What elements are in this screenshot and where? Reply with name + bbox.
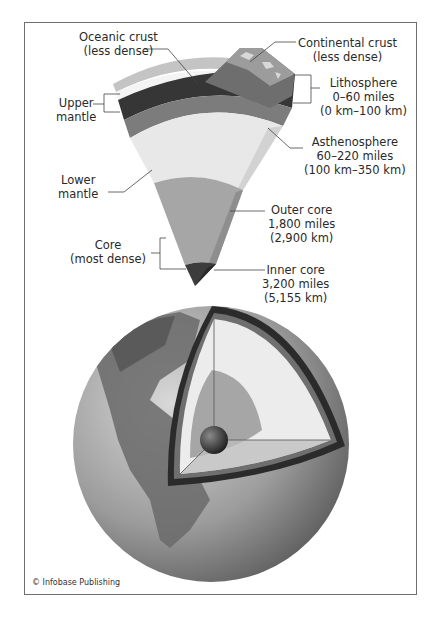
label-upper-mantle: Upper mantle [56, 96, 96, 124]
copyright-credit: © Infobase Publishing [32, 578, 120, 587]
label-lithosphere: Lithosphere 0–60 miles (0 km–100 km) [320, 76, 407, 118]
label-oceanic-crust: Oceanic crust (less dense) [79, 30, 158, 58]
globe-cutaway [73, 306, 349, 582]
label-inner-core: Inner core 3,200 miles (5,155 km) [262, 263, 329, 305]
label-lower-mantle: Lower mantle [58, 173, 98, 201]
label-core: Core (most dense) [70, 238, 146, 266]
label-outer-core: Outer core 1,800 miles (2,900 km) [268, 203, 335, 245]
label-asthenosphere: Asthenosphere 60–220 miles (100 km–350 k… [304, 135, 406, 177]
label-continental-crust: Continental crust (less dense) [298, 36, 397, 64]
